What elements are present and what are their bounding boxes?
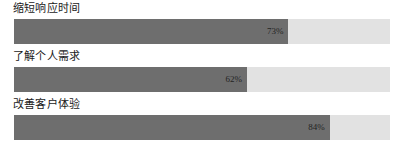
bar-value-label: 73% [267, 19, 284, 44]
bar-fill: 84% [14, 115, 330, 140]
bar-value-label: 62% [226, 67, 243, 92]
bar-fill: 73% [14, 19, 288, 44]
bar-fill: 62% [14, 67, 247, 92]
bar-value-label: 84% [308, 115, 325, 140]
bar-category-label: 了解个人需求 [13, 50, 80, 63]
bar-category-label: 缩短响应时间 [13, 2, 80, 15]
bar-track: 73% [14, 19, 390, 44]
bar-category-label: 改善客户体验 [13, 98, 80, 111]
bar-track: 62% [14, 67, 390, 92]
bar-track: 84% [14, 115, 390, 140]
horizontal-bar-chart: 缩短响应时间 73% 了解个人需求 62% 改善客户体验 84% [0, 0, 398, 150]
